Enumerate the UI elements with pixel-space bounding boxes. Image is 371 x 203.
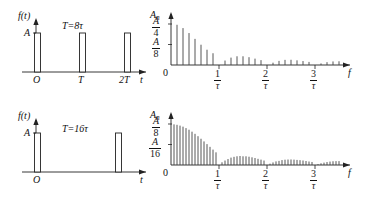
time-top-pulse	[80, 33, 86, 72]
time-top-xtick-origin: O	[33, 75, 40, 85]
frac-numerator: 2	[262, 169, 269, 179]
spectrum-top-xtick-label-2: 2 τ	[262, 69, 269, 91]
spectrum-top-x-axis-label: f	[348, 68, 351, 78]
time-top-xtick-T: T	[78, 75, 84, 85]
frac-denominator: τ	[310, 81, 317, 91]
spectrum-top-xtick-label-3: 3 τ	[310, 69, 317, 91]
frac-numerator: 1	[214, 69, 221, 79]
time-bottom-y-arrow	[33, 118, 38, 125]
time-bottom-pulse	[35, 133, 41, 172]
spectrum-bottom-xtick-label-3: 3 τ	[310, 169, 317, 191]
frac-numerator: A	[152, 16, 160, 26]
time-bottom-xtick-origin: O	[33, 175, 40, 185]
time-bottom-y-axis-label: f(t)	[18, 111, 30, 121]
spectrum-bottom-x-axis-label: f	[348, 168, 351, 178]
spectrum-top-origin-label: 0	[163, 68, 168, 78]
frac-denominator: τ	[310, 181, 317, 191]
spectrum-top-xtick-label-1: 1 τ	[214, 69, 221, 91]
figure-container: f(t) A T=8τ O T 2T t An A 4 A 8 0 1 τ	[0, 0, 371, 203]
time-top-y-axis-label: f(t)	[18, 11, 30, 21]
frac-numerator: A	[149, 137, 161, 147]
spectrum-bottom-origin-label: 0	[163, 168, 168, 178]
spectrum-bottom-plot	[168, 100, 371, 203]
spectrum-top-ytick-label-a4: A 4	[152, 16, 160, 38]
spectrum-bottom-ytick-label-a16: A 16	[149, 137, 161, 159]
frac-denominator: τ	[262, 181, 269, 191]
time-bottom-period-note: T=16τ	[62, 124, 88, 134]
time-top-amplitude-label: A	[24, 28, 30, 38]
frac-numerator: 3	[310, 169, 317, 179]
spectrum-top-ytick-label-a8: A 8	[152, 37, 160, 59]
time-top-x-axis-label: t	[140, 75, 143, 85]
time-top-period-note: T=8τ	[62, 21, 83, 31]
spectrum-bottom-xtick-label-1: 1 τ	[214, 169, 221, 191]
time-top-xtick-2T: 2T	[119, 75, 130, 85]
frac-denominator: τ	[214, 81, 221, 91]
spectrum-bottom-y-arrow	[168, 112, 173, 119]
spectrum-top-plot	[168, 0, 371, 100]
frac-numerator: 1	[214, 169, 221, 179]
frac-numerator: 3	[310, 69, 317, 79]
time-bottom-pulse	[116, 133, 122, 172]
time-top-pulse	[125, 33, 131, 72]
frac-denominator: τ	[214, 181, 221, 191]
frac-denominator: 16	[149, 149, 161, 159]
spectrum-bottom-lines	[174, 124, 339, 165]
time-bottom-x-axis-label: t	[140, 175, 143, 185]
spectrum-top-y-arrow	[168, 12, 173, 19]
frac-denominator: 8	[152, 49, 160, 59]
time-top-pulse	[35, 33, 41, 72]
time-bottom-amplitude-label: A	[24, 128, 30, 138]
frac-denominator: τ	[262, 81, 269, 91]
frac-numerator: 2	[262, 69, 269, 79]
time-top-y-arrow	[33, 18, 38, 25]
frac-numerator: A	[152, 37, 160, 47]
frac-numerator: A	[152, 116, 160, 126]
spectrum-top-lines	[177, 25, 339, 65]
spectrum-bottom-xtick-label-2: 2 τ	[262, 169, 269, 191]
spectrum-bottom-ytick-label-a8: A 8	[152, 116, 160, 138]
